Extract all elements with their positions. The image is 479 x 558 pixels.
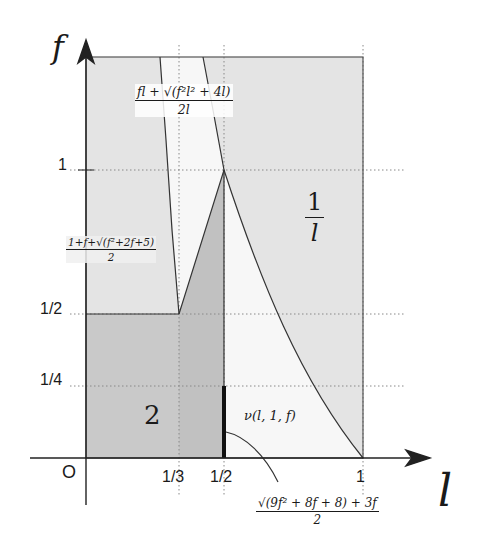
y-tick-1-4: 1/4	[40, 371, 62, 389]
y-tick-1: 1	[58, 156, 67, 174]
bottom-formula-numerator: √(9f² + 8f + 8) + 3f	[256, 496, 379, 512]
nu-label: ν(l, 1, f)	[244, 408, 296, 423]
y-tick-1-2: 1/2	[40, 300, 62, 318]
x-tick-1-2: 1/2	[210, 468, 232, 486]
left-formula-denominator: 2	[108, 250, 115, 263]
bottom-formula-denominator: 2	[314, 512, 322, 527]
top-formula-numerator: fl + √(f²l² + 4l)	[135, 84, 233, 101]
top-curve-formula: fl + √(f²l² + 4l) 2l	[135, 84, 233, 117]
region-inv-l-label: 1 l	[305, 188, 324, 247]
top-formula-denominator: 2l	[178, 101, 190, 117]
x-axis-label: l	[438, 465, 452, 516]
left-formula-numerator: 1+f+√(f²+2f+5)	[66, 236, 156, 250]
origin-label: O	[62, 462, 76, 483]
left-curve-formula: 1+f+√(f²+2f+5) 2	[66, 236, 156, 263]
x-tick-1: 1	[356, 468, 365, 486]
y-axis-label: f	[52, 28, 64, 66]
bottom-curve-formula: √(9f² + 8f + 8) + 3f 2	[256, 496, 379, 527]
x-tick-1-3: 1/3	[162, 468, 184, 486]
inv-l-denominator: l	[311, 218, 319, 247]
region-2-label: 2	[144, 400, 161, 430]
inv-l-numerator: 1	[305, 188, 324, 218]
